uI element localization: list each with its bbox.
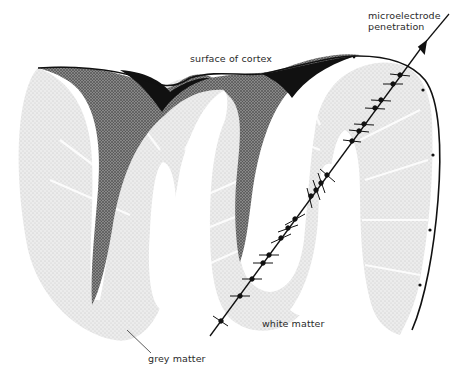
label-grey-matter: grey matter xyxy=(148,353,206,364)
label-white-matter: white matter xyxy=(262,318,325,329)
label-electrode-line2: penetration xyxy=(368,21,441,32)
label-surface-of-cortex: surface of cortex xyxy=(190,53,272,64)
electrode-arrowhead-icon xyxy=(417,40,429,56)
label-electrode-line1: microelectrode xyxy=(368,10,441,21)
label-microelectrode-penetration: microelectrode penetration xyxy=(368,10,441,32)
